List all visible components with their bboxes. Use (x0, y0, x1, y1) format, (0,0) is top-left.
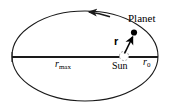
r-max-label: rmax (55, 59, 71, 71)
planet-marker (131, 29, 137, 35)
r-max-subscript: max (59, 63, 71, 71)
planet-label: Planet (128, 13, 156, 24)
r-zero-subscript: 0 (147, 61, 151, 69)
radius-vector-arrow (125, 37, 133, 54)
radius-vector-label: r (114, 36, 118, 47)
orbit-diagram: Planet Sun r rmax r0 (0, 0, 171, 106)
sun-label: Sun (112, 61, 128, 71)
r-zero-label: r0 (143, 57, 150, 69)
